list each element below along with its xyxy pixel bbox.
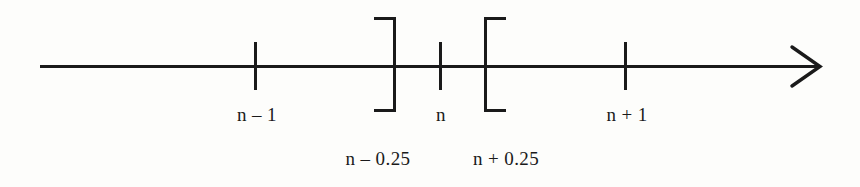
bracket-n-minus-0-25 [374,19,395,111]
number-line-graphic [0,0,860,187]
tick-label-n-plus-1: n + 1 [606,104,647,126]
bracket-n-plus-0-25 [486,19,507,111]
bracket-label-n-plus-0-25: n + 0.25 [473,148,539,170]
number-line-figure: n – 1 n n + 1 n – 0.25 n + 0.25 [0,0,860,187]
tick-label-n: n [436,104,446,126]
bracket-label-n-minus-0-25: n – 0.25 [346,148,411,170]
tick-label-n-minus-1: n – 1 [237,104,277,126]
